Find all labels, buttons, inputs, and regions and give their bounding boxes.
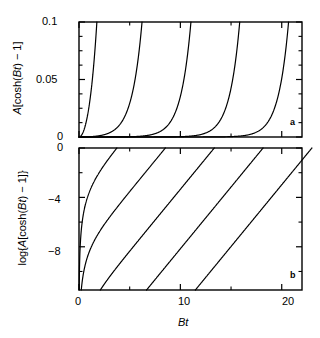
panel-a-ylabel-suffix: ) − 1] bbox=[11, 41, 23, 66]
panel-b-ylabel-variable: Bt bbox=[16, 199, 28, 209]
panel-b-ylabel-body: [cosh( bbox=[16, 210, 28, 240]
xtick-0: 0 bbox=[75, 295, 81, 307]
panel-b-curves bbox=[79, 148, 312, 290]
panel-a-frame bbox=[79, 22, 302, 137]
panel-b-ylabel-amplitude: A bbox=[16, 240, 28, 247]
xtick-1: 10 bbox=[178, 295, 190, 307]
x-axis-label: Bt bbox=[178, 316, 188, 328]
panel-b-ytick-0: 0 bbox=[57, 141, 63, 153]
panel-a-ytick-0: 0.1 bbox=[42, 15, 57, 27]
panel-b-ytick-2: −8 bbox=[48, 245, 61, 257]
panel-a-curves bbox=[79, 22, 289, 137]
panel-a-y-axis-label: A[cosh(Bt) − 1] bbox=[11, 23, 23, 133]
panel-b-ylabel-prefix: log{ bbox=[16, 247, 28, 265]
panel-b-ytick-1: −4 bbox=[48, 193, 61, 205]
xtick-2: 20 bbox=[282, 295, 294, 307]
figure-canvas bbox=[0, 0, 320, 338]
panel-a-ylabel-variable: Bt bbox=[11, 67, 23, 77]
panel-a-ytick-1: 0.05 bbox=[36, 73, 57, 85]
panel-b-tag: b bbox=[290, 270, 296, 280]
panel-a-tag: a bbox=[290, 117, 295, 127]
panel-b-ylabel-suffix: ) − 1]} bbox=[16, 170, 28, 199]
panel-b-y-axis-label: log{A[cosh(Bt) − 1]} bbox=[16, 154, 28, 282]
panel-a-ylabel-body: [cosh( bbox=[11, 77, 23, 107]
panel-b-frame bbox=[79, 148, 302, 290]
panel-a-ylabel-amplitude: A bbox=[11, 107, 23, 114]
